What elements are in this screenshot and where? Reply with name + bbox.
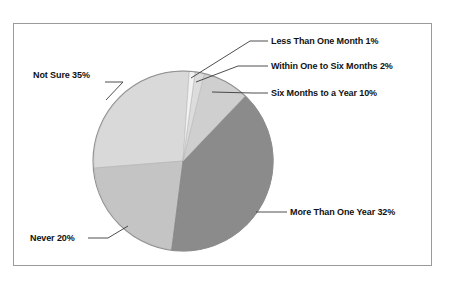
pie-chart xyxy=(0,0,450,289)
pie-label-never: Never 20% xyxy=(30,233,75,244)
pie-slice-not-sure xyxy=(94,71,189,168)
pie-label-not-sure: Not Sure 35% xyxy=(33,70,90,81)
pie-label-less-than-one-month: Less Than One Month 1% xyxy=(271,36,378,47)
pie-label-within-one-to-six-months: Within One to Six Months 2% xyxy=(271,61,393,72)
pie-slices xyxy=(94,71,273,251)
pie-label-more-than-one-year: More Than One Year 32% xyxy=(290,207,395,218)
pie-label-six-months-to-a-year: Six Months to a Year 10% xyxy=(271,88,377,99)
pie-slice-never xyxy=(94,161,183,250)
leader-line-less-than-one-month xyxy=(191,41,268,78)
